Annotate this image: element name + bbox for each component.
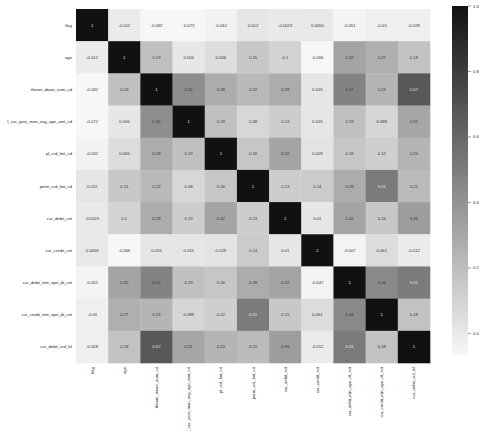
y-tick-label: cur_credit_cnt [46, 248, 73, 253]
cell-value: 0.51 [249, 312, 258, 317]
cell-value: -0.0023 [278, 23, 293, 28]
cell-value: 0.51 [345, 344, 354, 349]
cell-value: 0.056 [119, 151, 130, 156]
cell-value: 0.01 [313, 216, 322, 221]
cell-value: -0.012 [118, 23, 131, 28]
cell-value: 0.28 [281, 87, 290, 92]
cell-value: 0.42 [152, 119, 161, 124]
cell-value: 0.21 [249, 344, 258, 349]
cell-value: 0.44 [345, 312, 354, 317]
cell-value: 0.056 [216, 55, 227, 60]
colorbar: 1.00.80.60.40.20.0 [452, 4, 479, 356]
y-tick-label: cur_debit_crd_lvl [40, 344, 72, 349]
x-tick-label: f_cur_year_mon_avg_agn_amt_cd [186, 366, 191, 431]
cell-value: 0.67 [410, 87, 419, 92]
cell-value: 0.15 [281, 312, 290, 317]
cell-value: 0.24 [217, 344, 226, 349]
cell-value: -0.012 [408, 248, 421, 253]
cell-value: 0.13 [281, 184, 290, 189]
cell-value: 0.19 [345, 119, 354, 124]
cell-value: -0.092 [86, 87, 99, 92]
cell-value: 0.27 [378, 55, 387, 60]
cell-value: 0.061 [376, 248, 387, 253]
cell-value: 0.012 [248, 23, 259, 28]
cell-value: -0.066 [311, 55, 324, 60]
cell-value: 0.28 [217, 87, 226, 92]
cell-value: 0.18 [120, 344, 129, 349]
cell-value: 0.24 [378, 87, 387, 92]
heatmap-cells: 1-0.012-0.092-0.072-0.0420.012-0.00230.0… [76, 9, 430, 363]
cell-value: 0.16 [249, 151, 258, 156]
cell-value: -0.092 [151, 23, 164, 28]
cell-value: 0.51 [410, 280, 419, 285]
cell-value: 0.012 [87, 184, 98, 189]
y-tick-label: cur_debit_cnt [47, 216, 73, 221]
colorbar-tick-label: 0.4 [473, 200, 479, 205]
y-tick-label: flag [65, 23, 72, 28]
x-tick-label: cur_debit_cnt [283, 366, 288, 392]
cell-value: -0.042 [86, 151, 99, 156]
y-axis-labels: flagagethmon_dawn_aum_cdf_cur_year_mon_a… [7, 23, 73, 350]
cell-value: 0.1 [282, 55, 288, 60]
cell-value: 0.19 [152, 55, 161, 60]
x-axis-labels: flagagethmon_dawn_aum_cdf_cur_year_mon_a… [90, 366, 417, 431]
cell-value: 0.015 [312, 119, 323, 124]
cell-value: 0.0056 [86, 248, 99, 253]
cell-value: 0.19 [185, 280, 194, 285]
cell-value: 0.35 [410, 216, 419, 221]
cell-value: 0.19 [120, 87, 129, 92]
x-tick-label: flag [90, 366, 95, 373]
x-tick-label: age [122, 366, 127, 374]
cell-value: -0.051 [344, 23, 357, 28]
colorbar-tick-label: 0.6 [473, 134, 479, 139]
y-tick-label: thmon_dawn_aum_cd [31, 87, 73, 92]
y-tick-label: perm_crd_lmt_cd [40, 184, 73, 189]
x-tick-label: cur_debit_min_opn_dt_cnt [347, 366, 352, 416]
correlation-heatmap: 1-0.012-0.092-0.072-0.0420.012-0.00230.0… [0, 0, 487, 431]
cell-value: 0.32 [281, 151, 290, 156]
y-tick-label: cur_debit_min_opn_dt_cnt [23, 280, 73, 285]
cell-value: 0.31 [185, 344, 194, 349]
y-tick-label: age [65, 55, 73, 60]
cell-value: -0.042 [215, 23, 228, 28]
colorbar-tick-label: 0.2 [473, 265, 479, 270]
cell-value: 0.28 [152, 216, 161, 221]
cell-value: 0.13 [249, 216, 258, 221]
cell-value: 0.14 [249, 248, 258, 253]
cell-value: -0.0023 [85, 216, 100, 221]
x-tick-label: cur_debit_crd_lvl [411, 367, 416, 399]
cell-value: 0.51 [378, 184, 387, 189]
cell-value: 0.35 [281, 344, 290, 349]
colorbar-tick-label: 1.0 [473, 4, 479, 9]
cell-value: -0.03 [87, 312, 97, 317]
cell-value: 0.0056 [311, 23, 324, 28]
x-tick-label: thmon_dawn_aum_cd [154, 366, 159, 408]
cell-value: 0.19 [185, 151, 194, 156]
cell-value: 0.18 [410, 55, 419, 60]
cell-value: -0.047 [344, 248, 357, 253]
cell-value: 0.1 [121, 216, 127, 221]
cell-value: -0.028 [408, 23, 421, 28]
cell-value: 0.28 [152, 151, 161, 156]
y-tick-label: pl_crd_lmt_cd [46, 151, 73, 156]
cell-value: 0.24 [410, 151, 419, 156]
cell-value: 0.006 [183, 55, 194, 60]
cell-value: 0.088 [376, 119, 387, 124]
cell-value: 0.029 [216, 248, 227, 253]
cell-value: -0.012 [86, 55, 99, 60]
cell-value: 0.01 [281, 248, 290, 253]
cell-value: 0.16 [217, 184, 226, 189]
cell-value: -0.072 [183, 23, 196, 28]
colorbar-ticks: 1.00.80.60.40.20.0 [468, 4, 479, 336]
cell-value: 0.21 [410, 184, 419, 189]
cell-value: 0.32 [120, 280, 129, 285]
cell-value: 0.12 [217, 312, 226, 317]
cell-value: -0.051 [86, 280, 99, 285]
cell-value: 0.08 [249, 119, 258, 124]
cell-value: -0.066 [118, 248, 131, 253]
colorbar-tick-label: 0.0 [473, 331, 479, 336]
cell-value: 0.67 [152, 344, 161, 349]
cell-value: 0.32 [217, 216, 226, 221]
cell-value: -0.03 [377, 23, 387, 28]
cell-value: 0.006 [119, 119, 130, 124]
